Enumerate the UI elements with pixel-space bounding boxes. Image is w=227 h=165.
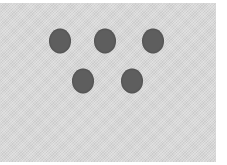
dot-circle bbox=[94, 29, 116, 54]
dot-circle bbox=[121, 69, 143, 94]
dot-circle bbox=[72, 69, 94, 94]
dot-circle bbox=[49, 29, 71, 54]
dot-circle bbox=[142, 29, 164, 54]
dot-pattern-panel bbox=[0, 3, 216, 162]
